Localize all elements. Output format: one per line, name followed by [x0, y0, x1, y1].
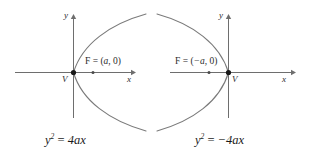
equation-relation: =: [204, 133, 217, 147]
equation-relation: =: [54, 133, 67, 147]
y-axis-arrowhead: [71, 14, 76, 19]
focus-label: F = (−a, 0): [175, 57, 217, 67]
equation-right: y2 = −4ax: [195, 133, 244, 147]
y-axis-arrowhead: [226, 14, 231, 19]
focus-label-value: −a: [194, 56, 205, 66]
vertex-point: [71, 70, 76, 75]
vertex-point: [226, 70, 231, 75]
x-axis-label: x: [127, 75, 131, 84]
equation-left: y2 = 4ax: [45, 133, 86, 147]
y-axis-label: y: [219, 11, 223, 20]
x-axis-label: x: [282, 75, 286, 84]
parabola-figure: y x V F = (a, 0) y2 = 4ax y x V F = (−a,…: [0, 0, 309, 159]
equation-rhs: 4ax: [68, 133, 86, 147]
focus-label-suffix: , 0): [205, 56, 218, 66]
focus-point: [208, 71, 211, 74]
x-axis-arrowhead: [131, 70, 136, 75]
focus-point: [92, 71, 95, 74]
focus-label-prefix: F = (: [175, 56, 194, 66]
parabola-panel-left: y x V F = (a, 0) y2 = 4ax: [0, 0, 154, 159]
vertex-label: V: [62, 75, 68, 84]
equation-rhs: −4ax: [218, 133, 244, 147]
focus-label-prefix: F = (: [85, 56, 104, 66]
focus-label-suffix: , 0): [108, 56, 121, 66]
x-axis-arrowhead: [291, 70, 296, 75]
parabola-panel-right: y x V F = (−a, 0) y2 = −4ax: [155, 0, 309, 159]
focus-label: F = (a, 0): [85, 57, 121, 67]
vertex-label: V: [232, 75, 238, 84]
y-axis-label: y: [64, 11, 68, 20]
